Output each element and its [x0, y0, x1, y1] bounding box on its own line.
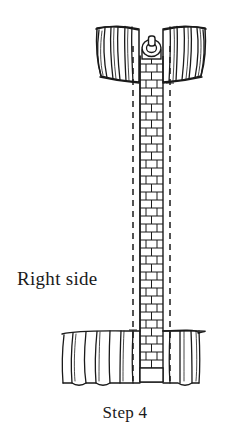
step-caption: Step 4 — [0, 403, 250, 423]
hem-fold-l7 — [132, 331, 133, 383]
illustration-page: Right side Step 4 — [0, 0, 250, 444]
hem-fold-r4 — [199, 331, 200, 383]
zipper-bottom-stop — [140, 368, 163, 382]
zipper-pull-tab — [149, 36, 156, 46]
zipper-installation-illustration — [0, 0, 250, 444]
right-side-label: Right side — [17, 268, 98, 290]
hem-fold-l5 — [109, 331, 110, 383]
hem-fold-r1 — [169, 331, 170, 383]
